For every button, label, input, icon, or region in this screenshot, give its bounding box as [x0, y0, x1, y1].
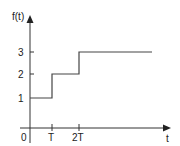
- y-tick-label-3: 3: [18, 47, 24, 58]
- y-axis-label: f(t): [12, 11, 24, 22]
- y-tick-label-2: 2: [18, 69, 24, 80]
- y-axis-arrow-icon: [27, 15, 34, 23]
- step-function-line: [30, 52, 152, 98]
- x-axis-arrow-icon: [163, 125, 171, 132]
- y-tick-label-1: 1: [18, 93, 24, 104]
- x-tick-label-T: T: [48, 132, 54, 143]
- x-tick-label-2T: 2T: [72, 132, 84, 143]
- x-axis-label: t: [166, 133, 169, 144]
- step-function-chart: f(t) t 0 T 2T 1 2 3: [0, 0, 180, 146]
- origin-label: 0: [21, 132, 27, 143]
